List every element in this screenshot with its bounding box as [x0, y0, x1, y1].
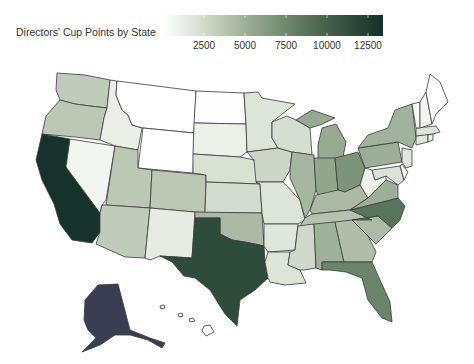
state-NY[interactable]	[358, 104, 416, 148]
state-HI[interactable]	[202, 325, 214, 336]
state-SD[interactable]	[193, 123, 247, 157]
state-RI[interactable]	[428, 134, 433, 142]
state-CO[interactable]	[150, 170, 206, 213]
state-NJ[interactable]	[402, 148, 412, 168]
state-HI-2[interactable]	[189, 318, 195, 322]
state-HI-3[interactable]	[178, 313, 183, 317]
us-choropleth-map	[0, 0, 474, 364]
state-WY[interactable]	[138, 128, 194, 173]
state-AR[interactable]	[264, 224, 298, 252]
state-KS[interactable]	[205, 182, 262, 213]
state-ND[interactable]	[194, 91, 246, 124]
state-FL[interactable]	[322, 262, 392, 322]
state-AZ[interactable]	[96, 205, 150, 258]
state-HI-4[interactable]	[160, 305, 165, 309]
state-NM[interactable]	[145, 208, 195, 260]
state-AK[interactable]	[82, 284, 165, 352]
